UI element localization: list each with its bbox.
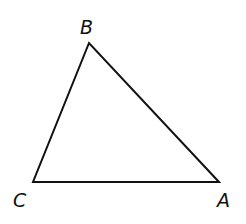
vertex-label-c: C [13, 189, 27, 211]
vertex-label-a: A [215, 189, 230, 211]
vertex-label-b: B [80, 16, 93, 38]
triangle-diagram: B C A [0, 0, 246, 224]
triangle-abc [33, 43, 219, 182]
